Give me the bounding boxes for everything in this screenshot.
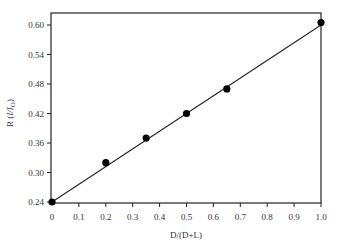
data-point	[317, 19, 324, 26]
x-tick-label: 0	[50, 212, 55, 222]
chart: 0.240.300.360.420.480.540.60 00.10.20.30…	[0, 0, 341, 245]
data-point	[183, 110, 190, 117]
x-tick-label: 0.2	[100, 212, 111, 222]
y-tick-label: 0.30	[28, 168, 44, 178]
x-tick-label: 0.7	[235, 212, 247, 222]
y-tick-label: 0.54	[28, 50, 44, 60]
x-tick-label: 0.8	[262, 212, 274, 222]
data-point	[48, 198, 55, 205]
x-tick-label: 0.1	[73, 212, 84, 222]
y-tick-label: 0.60	[28, 20, 44, 30]
x-tick-label: 0.5	[181, 212, 193, 222]
data-point	[143, 134, 150, 141]
x-tick-label: 0.3	[127, 212, 139, 222]
x-tick-label: 0.4	[154, 212, 166, 222]
x-axis-label: D/(D+L)	[170, 230, 202, 240]
y-axis: 0.240.300.360.420.480.540.60	[28, 20, 51, 207]
x-tick-label: 0.9	[288, 212, 300, 222]
plot-frame	[51, 13, 321, 203]
data-point	[102, 159, 109, 166]
y-tick-label: 0.42	[28, 109, 44, 119]
x-tick-label: 1.0	[315, 212, 327, 222]
y-tick-label: 0.48	[28, 79, 44, 89]
data-point	[223, 85, 230, 92]
x-tick-label: 0.6	[208, 212, 220, 222]
y-tick-label: 0.24	[28, 197, 44, 207]
y-tick-label: 0.36	[28, 138, 44, 148]
x-axis: 00.10.20.30.40.50.60.70.80.91.0	[50, 203, 327, 222]
y-axis-label: R (I/IO)	[5, 99, 17, 127]
